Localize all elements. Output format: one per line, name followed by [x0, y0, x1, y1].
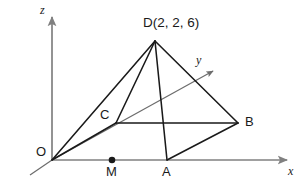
edge-A-B	[167, 123, 238, 160]
axis-label-x: x	[288, 165, 293, 177]
y-axis-negative-segment	[30, 160, 52, 175]
point-label-D: D(2, 2, 6)	[143, 16, 199, 30]
point-label-B: B	[245, 115, 254, 128]
point-marker-M	[109, 157, 116, 164]
axis-label-z: z	[40, 4, 45, 16]
diagram-canvas: z y x O M A B C D(2, 2, 6)	[0, 0, 305, 188]
edge-D-C	[116, 41, 155, 123]
axis-label-y: y	[196, 54, 201, 66]
point-label-M: M	[106, 165, 117, 178]
point-label-A: A	[162, 165, 171, 178]
point-label-O: O	[36, 145, 46, 158]
edge-O-D	[52, 41, 155, 160]
edge-D-A	[155, 41, 167, 160]
point-markers-group	[109, 157, 116, 164]
point-label-C: C	[100, 108, 109, 121]
edge-O-C	[52, 123, 116, 160]
pyramid-edges-group	[52, 41, 238, 160]
